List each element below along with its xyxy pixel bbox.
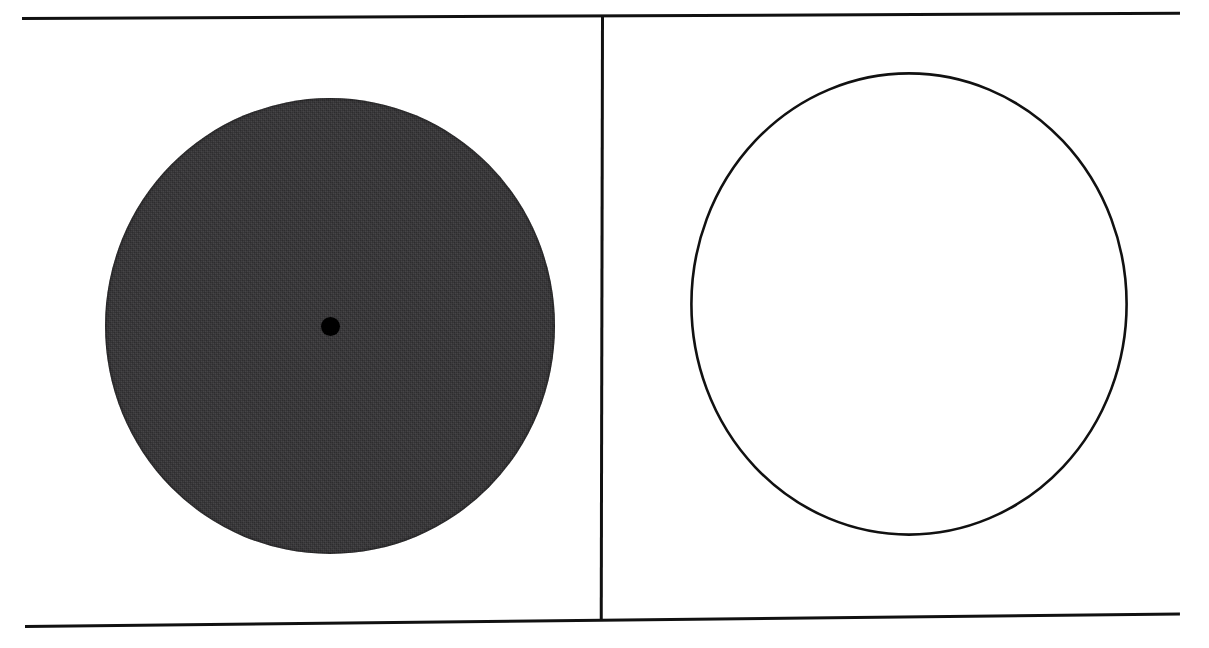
- left-panel: [22, 20, 601, 620]
- center-point-dot: [321, 317, 340, 336]
- right-panel: [604, 20, 1180, 620]
- outline-circle-shape: [690, 72, 1128, 536]
- filled-disc-group: [105, 98, 555, 554]
- outline-circle-group: [690, 72, 1128, 536]
- figure-canvas: [0, 0, 1209, 648]
